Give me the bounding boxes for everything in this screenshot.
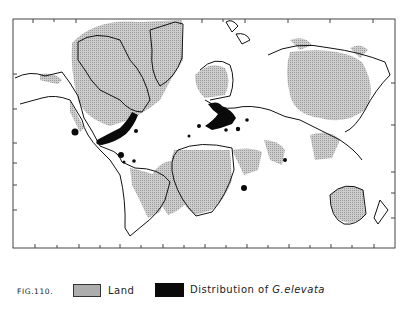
distribution-label-text: Distribution of xyxy=(190,284,269,295)
distribution-swatch xyxy=(155,283,184,297)
world-distribution-map xyxy=(0,0,408,270)
legend: FIG.110. Land Distribution of G.elevata xyxy=(0,281,408,303)
land-label: Land xyxy=(108,285,134,296)
land-swatch xyxy=(73,284,101,297)
land-shading xyxy=(40,20,371,223)
figure-label: FIG.110. xyxy=(17,287,53,296)
species-name: G.elevata xyxy=(272,284,325,295)
distribution-label: Distribution of G.elevata xyxy=(190,284,325,295)
